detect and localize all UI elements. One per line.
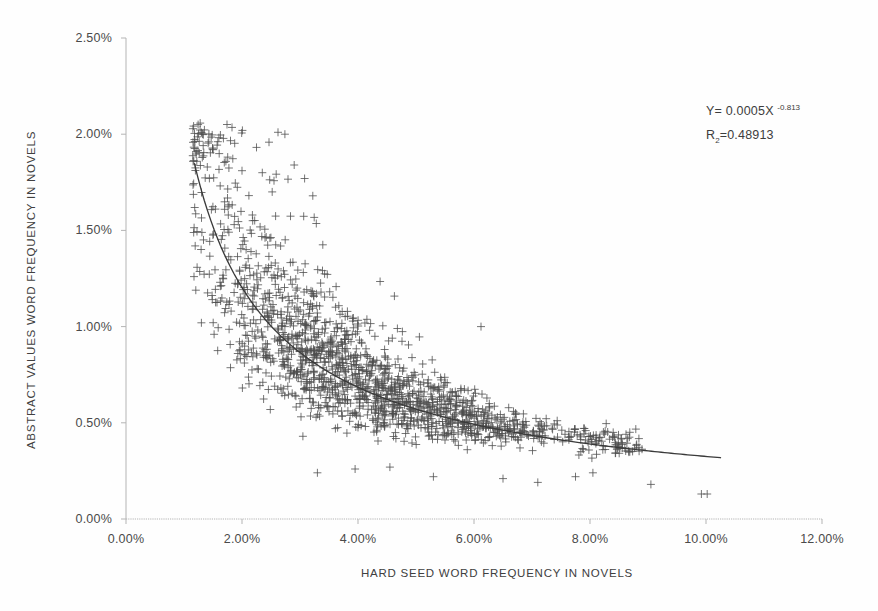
y-tick-label: 2.50% [40, 31, 112, 45]
trendline-equation-text: Y= 0.0005X -0.813 [706, 96, 800, 123]
x-tick-label: 0.00% [108, 532, 144, 546]
y-tick-label: 1.50% [40, 223, 112, 237]
x-tick-label: 8.00% [572, 532, 608, 546]
y-tick-label: 0.00% [40, 512, 112, 526]
plot-canvas [0, 0, 878, 611]
equation-prefix: Y= 0.0005X [706, 104, 777, 118]
x-tick-label: 6.00% [456, 532, 492, 546]
y-tick-label: 0.50% [40, 416, 112, 430]
y-tick-label: 2.00% [40, 127, 112, 141]
scatter-chart-figure: 0.00%0.50%1.00%1.50%2.00%2.50% 0.00%2.00… [0, 0, 878, 611]
y-axis-title: ABSTRACT VALUES WORD FREQUENCY IN NOVELS [25, 131, 37, 449]
data-points-group [189, 119, 711, 498]
r-squared-prefix: R [706, 128, 715, 142]
x-tick-label: 12.00% [800, 532, 844, 546]
x-tick-label: 10.00% [684, 532, 728, 546]
r-squared-text: R2=0.48913 [706, 123, 800, 153]
y-tick-label: 1.00% [40, 320, 112, 334]
x-axis-title: HARD SEED WORD FREQUENCY IN NOVELS [361, 567, 633, 579]
r-squared-value: =0.48913 [720, 128, 774, 142]
scatter-points [189, 119, 711, 498]
trendline-annotation: Y= 0.0005X -0.813 R2=0.48913 [706, 96, 800, 153]
x-tick-label: 2.00% [224, 532, 260, 546]
x-tick-label: 4.00% [340, 532, 376, 546]
equation-exponent: -0.813 [777, 103, 800, 112]
